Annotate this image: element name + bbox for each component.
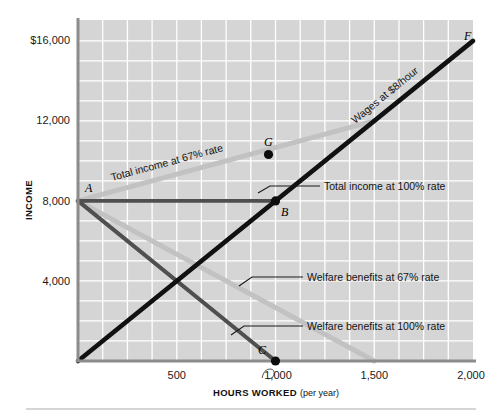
chart-svg: A B C F G Total income at 67% rate Wages…: [0, 0, 502, 419]
y-axis-title: INCOME: [23, 180, 34, 220]
callout-label-total-income-100: Total income at 100% rate: [324, 180, 446, 192]
point-label-C: C: [258, 343, 267, 357]
x-tick-label-2000: 2,000: [457, 369, 485, 381]
callout-label-welfare-67: Welfare benefits at 67% rate: [307, 271, 439, 283]
point-marker-G: [264, 150, 273, 159]
x-tick-label-1500: 1,500: [361, 369, 389, 381]
y-tick-label-16000: $16,000: [30, 34, 70, 46]
y-tick-label-12000: 12,000: [36, 114, 70, 126]
point-marker-B: [271, 196, 280, 205]
x-axis-title: HOURS WORKED: [213, 387, 297, 398]
x-axis-title-suffix: (per year): [300, 388, 339, 398]
point-label-F: F: [463, 29, 472, 43]
x-tick-label-1000: 1,000: [264, 369, 292, 381]
point-label-G: G: [264, 135, 273, 149]
y-tick-label-4000: 4,000: [42, 275, 70, 287]
welfare-income-chart: A B C F G Total income at 67% rate Wages…: [0, 0, 502, 419]
callout-label-welfare-100: Welfare benefits at 100% rate: [307, 320, 445, 332]
y-tick-label-8000: 8,000: [42, 195, 70, 207]
point-marker-C: [271, 356, 280, 365]
point-label-A: A: [84, 181, 93, 195]
point-label-B: B: [281, 205, 289, 219]
x-tick-label-500: 500: [168, 369, 186, 381]
